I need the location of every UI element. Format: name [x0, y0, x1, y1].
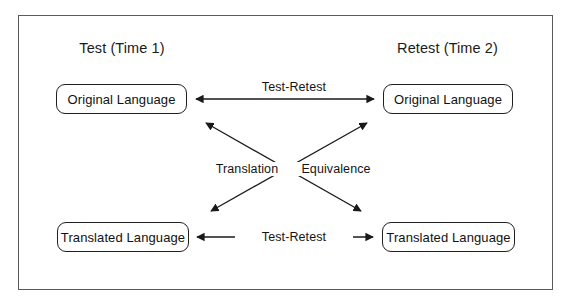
edge-label-equivalence: Equivalence [288, 162, 384, 176]
node-box-original-language-time1: Original Language [56, 84, 187, 114]
diagram-screenshot: Test (Time 1) Retest (Time 2) Original L… [0, 0, 572, 304]
edge-label-test-retest-top: Test-Retest [235, 80, 353, 94]
column-header-test-time1: Test (Time 1) [56, 40, 188, 56]
edge-label-test-retest-bottom: Test-Retest [235, 230, 353, 244]
column-header-retest-time2: Retest (Time 2) [381, 40, 514, 56]
node-box-original-language-time2: Original Language [383, 84, 513, 114]
node-box-translated-language-time2: Translated Language [382, 222, 515, 252]
node-box-translated-language-time1: Translated Language [57, 222, 189, 252]
edge-label-translation: Translation [203, 162, 291, 176]
